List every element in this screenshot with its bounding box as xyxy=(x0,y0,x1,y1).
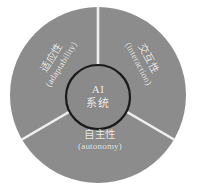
wheel-graphic xyxy=(0,0,200,189)
ai-system-wheel-diagram: 适应性 (adaptability) 交互性 (interaction) 自主性… xyxy=(0,0,200,189)
center-circle xyxy=(66,65,130,129)
